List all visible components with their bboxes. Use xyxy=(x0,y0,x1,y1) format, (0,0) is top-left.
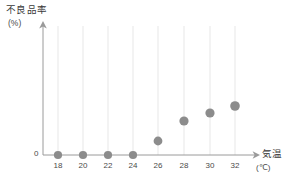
data-point xyxy=(79,151,87,159)
y-axis-line xyxy=(39,21,47,155)
x-tick-label: 30 xyxy=(200,161,220,170)
x-tick-label: 24 xyxy=(123,161,143,170)
x-tick-label: 20 xyxy=(73,161,93,170)
data-point xyxy=(179,116,188,125)
data-point xyxy=(205,108,214,117)
data-point xyxy=(104,151,112,159)
data-point xyxy=(54,151,62,159)
origin-label: 0 xyxy=(34,149,38,158)
defect-rate-scatter-chart: 不良品率 (%) 気温 (℃) 0 18 20 22 24 26 28 30 3… xyxy=(0,0,289,182)
x-tick-label: 28 xyxy=(174,161,194,170)
data-point xyxy=(154,137,163,146)
x-tick-label: 32 xyxy=(225,161,245,170)
x-axis-line xyxy=(43,151,260,159)
y-axis-unit-label: (%) xyxy=(8,17,21,29)
data-point xyxy=(129,151,137,159)
x-tick-label: 26 xyxy=(148,161,168,170)
plot-area: 不良品率 (%) 気温 (℃) 0 18 20 22 24 26 28 30 3… xyxy=(0,0,289,182)
x-tick-label: 22 xyxy=(98,161,118,170)
data-point xyxy=(230,101,240,111)
gridlines xyxy=(58,26,235,155)
y-axis-title: 不良品率 xyxy=(6,4,48,16)
x-axis-unit-label: (℃) xyxy=(256,162,270,174)
chart-canvas xyxy=(0,0,289,182)
x-axis-title: 気温 xyxy=(262,148,283,160)
data-points xyxy=(54,101,240,159)
x-tick-label: 18 xyxy=(48,161,68,170)
